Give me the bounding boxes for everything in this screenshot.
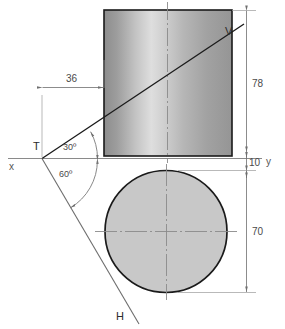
- angle-arc-30: [91, 132, 98, 159]
- technical-drawing-svg: 36 78 10 70 T V H x y: [0, 0, 285, 329]
- dimension-10: 10: [247, 152, 261, 178]
- dim-label-70: 70: [252, 226, 264, 237]
- dim-label-78: 78: [252, 78, 264, 89]
- label-point-v: V: [225, 25, 233, 37]
- dim-label-36: 36: [66, 73, 78, 84]
- label-point-h: H: [116, 310, 124, 322]
- label-point-t: T: [33, 140, 40, 152]
- label-axis-x: x: [9, 161, 14, 172]
- cylinder-body-rect: [104, 10, 232, 156]
- angle-arc-60: [71, 161, 98, 208]
- technical-drawing-canvas: 36 78 10 70 T V H x y: [0, 0, 285, 329]
- dimension-78: 78: [232, 11, 264, 158]
- dim-label-10: 10: [249, 157, 261, 168]
- label-axis-y: y: [266, 156, 271, 167]
- label-angle-30: 30º: [63, 142, 77, 152]
- front-view-cylinder: [104, 10, 232, 156]
- label-angle-60: 60º: [59, 169, 73, 179]
